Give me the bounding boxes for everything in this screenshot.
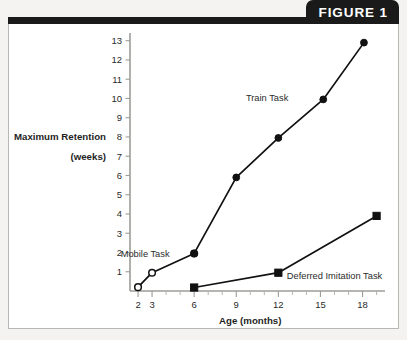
figure-root: FIGURE 1 123456789101112132369121518Mobi… bbox=[0, 0, 407, 340]
figure-number-label: FIGURE 1 bbox=[319, 5, 388, 20]
figure-number-tab: FIGURE 1 bbox=[306, 0, 399, 24]
figure-card bbox=[8, 17, 399, 329]
